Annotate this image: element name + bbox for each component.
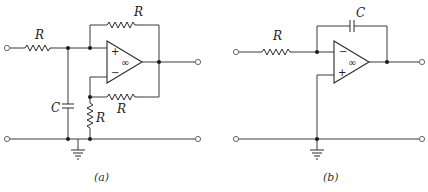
opamp-a-plus: + <box>111 46 119 57</box>
feedback-resistor-bottom-a <box>107 94 137 100</box>
ground-terminal-left-b <box>233 136 238 141</box>
label-feedback-resistor-bottom-a: R <box>116 102 126 116</box>
shunt-resistor-a <box>87 103 93 128</box>
caption-a: (a) <box>94 171 109 184</box>
junction-dot <box>88 95 92 99</box>
bottom-feedback-right-wire-a <box>137 62 159 97</box>
ground-terminal-right-b <box>419 136 424 141</box>
input-resistor-a <box>25 45 52 51</box>
circuit-figure: + − ∞ <box>0 0 428 192</box>
label-capacitor-a: C <box>51 101 60 115</box>
noninverting-input-wire-b <box>317 75 334 139</box>
input-terminal-b <box>233 49 238 54</box>
junction-dot <box>66 46 70 50</box>
ground-icon-b <box>310 139 324 159</box>
ground-terminal-left-a <box>4 136 9 141</box>
junction-dot <box>88 46 92 50</box>
opamp-a-gain: ∞ <box>121 57 129 68</box>
feedback-top-left-wire-a <box>90 25 107 48</box>
circuit-b: − + ∞ R C (b) <box>233 6 424 184</box>
ground-terminal-right-a <box>195 136 200 141</box>
output-terminal-b <box>419 59 424 64</box>
inverting-input-wire-a <box>90 77 107 97</box>
label-shunt-resistor-a: R <box>95 111 105 125</box>
opamp-b-plus: + <box>338 67 346 78</box>
label-input-resistor-b: R <box>272 29 282 43</box>
feedback-top-right-wire-a <box>137 25 159 62</box>
junction-dot <box>315 50 319 54</box>
opamp-b-gain: ∞ <box>348 57 356 68</box>
input-terminal-a <box>4 45 9 50</box>
label-feedback-resistor-top-a: R <box>133 5 143 19</box>
ground-icon-a <box>71 139 85 159</box>
junction-dot <box>88 137 92 141</box>
junction-dot <box>385 60 389 64</box>
junction-dot <box>315 137 319 141</box>
feedback-resistor-top-a <box>107 22 137 28</box>
label-input-resistor-a: R <box>34 28 44 42</box>
junction-dot <box>66 137 70 141</box>
opamp-b-minus: − <box>339 46 347 57</box>
caption-b: (b) <box>323 171 339 184</box>
input-resistor-b <box>262 49 292 55</box>
circuit-a: + − ∞ <box>4 5 200 184</box>
junction-dot <box>157 60 161 64</box>
label-feedback-capacitor-b: C <box>356 6 365 20</box>
opamp-a-minus: − <box>111 67 119 78</box>
output-terminal-a <box>195 59 200 64</box>
